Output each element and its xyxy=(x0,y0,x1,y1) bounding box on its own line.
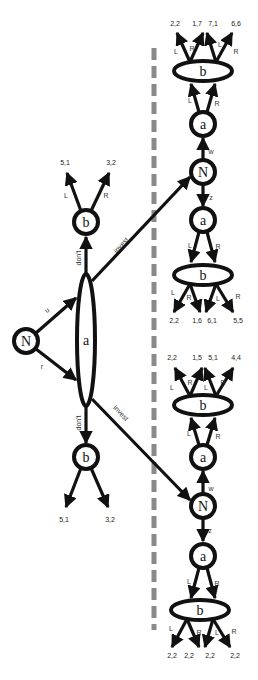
payoff: 2,2 xyxy=(205,652,215,659)
edge-label: R xyxy=(189,45,194,52)
edge xyxy=(191,232,199,262)
node-label: b xyxy=(83,215,90,230)
edge-label: L xyxy=(187,430,191,437)
edge-label: L xyxy=(171,289,175,296)
root-nature-node: N xyxy=(14,329,38,353)
node-label: a xyxy=(200,450,207,465)
edge-label: L xyxy=(204,384,208,391)
edge xyxy=(207,232,215,262)
edge xyxy=(205,368,216,396)
edge xyxy=(207,84,215,112)
payoff: 2,2 xyxy=(184,652,194,659)
edge-label: R xyxy=(187,379,192,386)
edge-label-w: w xyxy=(207,485,214,492)
edge-label: L xyxy=(170,384,174,391)
payoff: 6,6 xyxy=(231,20,241,27)
left-top-b-node: b xyxy=(74,210,98,234)
edge-label: L xyxy=(187,578,191,585)
node-label: b xyxy=(200,268,207,283)
edge-label-r: r xyxy=(41,363,44,370)
node-label: N xyxy=(198,499,208,514)
edge xyxy=(191,84,199,112)
edge-label-dont-up: don't xyxy=(75,250,82,265)
info-set-a: a xyxy=(77,274,95,406)
edge xyxy=(216,33,232,62)
edge-label-w: w xyxy=(207,148,214,155)
edge-label-z: z xyxy=(208,527,212,534)
node-label: a xyxy=(200,117,207,132)
payoff: 6,1 xyxy=(207,317,217,324)
payoff: 2,2 xyxy=(167,652,177,659)
edge-label-R: R xyxy=(103,192,108,199)
edge xyxy=(191,568,199,598)
node-label: b xyxy=(197,603,204,618)
edge-label-invest-lower: invest xyxy=(112,404,130,422)
edge-label: L xyxy=(174,48,178,55)
edge xyxy=(207,418,215,445)
edge-label-dont-down: don't xyxy=(75,415,82,430)
edge-label: R xyxy=(214,580,219,587)
payoff: 2,2 xyxy=(230,652,240,659)
edge xyxy=(177,33,190,62)
payoff: 1,5 xyxy=(192,354,202,361)
edge-u xyxy=(36,298,76,333)
edge-label: R xyxy=(196,629,201,636)
node-label: b xyxy=(83,450,90,465)
edge-label: L xyxy=(188,97,192,104)
payoff: 5,5 xyxy=(233,317,243,324)
payoff: 5,1 xyxy=(60,159,70,166)
payoff: 2,2 xyxy=(170,20,180,27)
node-label: b xyxy=(200,398,207,413)
edge-label: R xyxy=(215,433,220,440)
left-bottom-b-node: b xyxy=(74,445,98,469)
edge-invest-lower xyxy=(92,399,190,500)
edge-label: R xyxy=(220,379,225,386)
edge-left xyxy=(66,468,81,507)
edge xyxy=(205,619,213,647)
payoff: 2,2 xyxy=(169,317,179,324)
edge-label: L xyxy=(169,625,173,632)
payoff: 5,1 xyxy=(208,354,218,361)
payoff: 7,1 xyxy=(208,20,218,27)
payoff: 5,1 xyxy=(59,516,69,523)
node-label: N xyxy=(21,334,31,349)
edge-label: R xyxy=(186,294,191,301)
edge xyxy=(206,284,216,312)
edge-label: L xyxy=(215,629,219,636)
upper-subgame: b L R L R 2,2 1,7 7,1 6,6 a L R N w z a … xyxy=(169,20,243,324)
payoff: 2,2 xyxy=(167,354,177,361)
node-label: b xyxy=(200,64,207,79)
node-label: a xyxy=(200,549,207,564)
edge xyxy=(172,619,187,647)
edge-label: R xyxy=(233,48,238,55)
edge-label-L: L xyxy=(64,192,68,199)
node-label: N xyxy=(198,165,208,180)
edge-label: R xyxy=(235,293,240,300)
edge-label-u: u xyxy=(43,306,51,314)
game-tree-diagram: N u r a don't don't b L R 5,1 3,2 b 5,1 … xyxy=(0,0,258,680)
edge xyxy=(191,418,199,445)
edge-label: L xyxy=(218,41,222,48)
edge-label-z: z xyxy=(209,194,213,201)
edge-L xyxy=(67,173,81,211)
edge-label: R xyxy=(231,628,236,635)
node-label: a xyxy=(200,213,207,228)
lower-subgame: b L R L R 2,2 1,5 5,1 4,4 a L R N w z a … xyxy=(167,354,241,659)
edge-label: R xyxy=(214,100,219,107)
payoff: 1,6 xyxy=(192,317,202,324)
edge-right xyxy=(91,468,108,507)
edge-label: L xyxy=(188,242,192,249)
payoff: 3,2 xyxy=(106,159,116,166)
payoff: 1,7 xyxy=(192,20,202,27)
edge-label: R xyxy=(215,243,220,250)
edge-label: L xyxy=(216,295,220,302)
edge xyxy=(207,33,216,62)
node-label: a xyxy=(83,333,90,348)
payoff: 4,4 xyxy=(231,354,241,361)
payoff: 3,2 xyxy=(105,516,115,523)
